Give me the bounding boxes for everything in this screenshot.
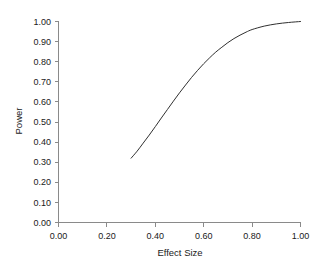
x-tick-label: 0.00 [50,231,68,241]
x-axis-ticks [59,223,301,227]
x-tick-label: 0.40 [147,231,165,241]
y-tick-label: 0.60 [33,97,51,107]
power-curve-chart: 0.00 0.10 0.20 0.30 0.40 0.50 0.60 0.70 … [0,0,326,270]
x-tick-labels: 0.00 0.20 0.40 0.60 0.80 1.00 [50,231,310,241]
y-tick-labels: 0.00 0.10 0.20 0.30 0.40 0.50 0.60 0.70 … [33,17,51,228]
y-tick-label: 0.50 [33,117,51,127]
y-tick-label: 0.20 [33,177,51,187]
y-tick-label: 0.40 [33,137,51,147]
x-tick-label: 1.00 [292,231,310,241]
y-tick-label: 0.80 [33,57,51,67]
y-axis-title: Power [13,108,24,135]
y-tick-label: 0.90 [33,37,51,47]
y-tick-label: 0.30 [33,157,51,167]
y-tick-label: 0.00 [33,218,51,228]
y-tick-label: 1.00 [33,17,51,27]
chart-figure: 0.00 0.10 0.20 0.30 0.40 0.50 0.60 0.70 … [0,0,326,270]
y-tick-label: 0.70 [33,77,51,87]
x-tick-label: 0.20 [98,231,116,241]
x-axis-title: Effect Size [157,247,202,258]
x-tick-label: 0.60 [195,231,213,241]
y-tick-label: 0.10 [33,198,51,208]
x-tick-label: 0.80 [243,231,261,241]
y-axis-ticks [55,22,59,223]
power-curve-line [131,22,300,159]
